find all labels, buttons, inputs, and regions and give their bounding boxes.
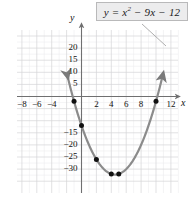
equation-rest: − 9x − 12 [131, 6, 180, 18]
x-tick-label: 8 [131, 99, 151, 109]
y-tick-label: 10 [51, 66, 78, 76]
equation-callout-box: y = x2 − 9x − 12 [96, 2, 188, 21]
y-tick-label: −15 [51, 127, 78, 137]
y-tick-label: −30 [51, 163, 78, 173]
data-points [72, 99, 159, 177]
graph-figure: y = x2 − 9x − 12 y x −8−6−42468122015105… [0, 0, 193, 205]
y-axis-label: y [70, 12, 74, 23]
data-point [109, 171, 114, 176]
x-tick-label: 12 [161, 99, 181, 109]
data-point [116, 171, 121, 176]
data-point [79, 123, 84, 128]
y-tick-label: −20 [51, 139, 78, 149]
equation-label: y = x2 − 9x − 12 [104, 5, 181, 18]
x-axis-label: x [181, 97, 185, 108]
y-tick-label: 15 [51, 54, 78, 64]
equation-base: y = x [104, 6, 128, 18]
y-tick-label: −25 [51, 151, 78, 161]
data-point [94, 157, 99, 162]
y-tick-label: 5 [51, 78, 78, 88]
data-point [154, 99, 159, 104]
data-point [72, 99, 77, 104]
callout-leader-line [142, 24, 166, 46]
x-tick-label: −4 [42, 99, 62, 109]
y-tick-label: 20 [51, 42, 78, 52]
